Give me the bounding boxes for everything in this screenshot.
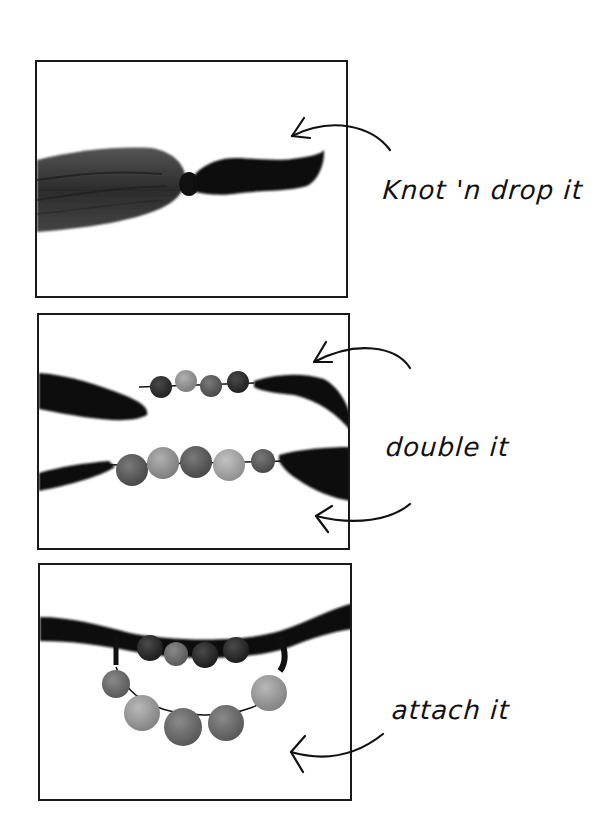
arrow-icon [306, 336, 414, 372]
step-3-caption: attach it [391, 695, 511, 725]
step-1-photo-panel [35, 60, 348, 298]
arrow-icon [283, 730, 387, 780]
step-1-caption: Knot 'n drop it [382, 175, 584, 205]
step-2-photo-panel [37, 313, 350, 550]
arrow-icon [282, 112, 394, 154]
step-2-caption: double it [385, 432, 510, 462]
knotted-scarf-image [37, 62, 348, 298]
doubled-necklace-image [39, 315, 350, 550]
arrow-icon [306, 498, 414, 534]
